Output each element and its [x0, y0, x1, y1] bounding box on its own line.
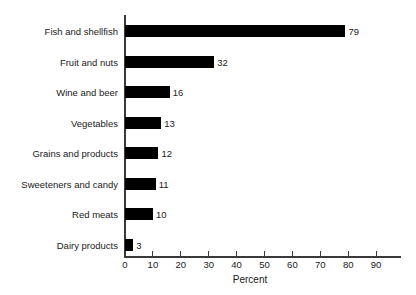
bar-value-label: 16 [173, 87, 184, 98]
bar [125, 25, 345, 37]
x-tick [180, 251, 181, 257]
bar-value-label: 10 [156, 209, 167, 220]
bar [125, 117, 161, 129]
bar-value-label: 32 [217, 57, 228, 68]
category-label: Wine and beer [56, 87, 118, 98]
x-axis-title: Percent [0, 274, 416, 286]
category-label: Fish and shellfish [45, 26, 118, 37]
bar [125, 178, 156, 190]
category-label: Red meats [72, 209, 118, 220]
x-tick [264, 251, 265, 257]
category-label: Sweeteners and candy [21, 179, 118, 190]
bar-value-label: 3 [136, 240, 141, 251]
bar-value-label: 79 [348, 26, 359, 37]
x-tick-label: 60 [287, 259, 298, 270]
x-axis-line [124, 256, 401, 258]
x-tick-label: 80 [343, 259, 354, 270]
x-tick [376, 251, 377, 257]
y-axis-line [124, 15, 126, 257]
x-tick-label: 30 [203, 259, 214, 270]
x-tick [320, 251, 321, 257]
bar-value-label: 13 [164, 118, 175, 129]
x-tick-label: 50 [259, 259, 270, 270]
bar-chart: 0102030405060708090 Fish and shellfish79… [0, 0, 416, 295]
x-tick-label: 0 [122, 259, 127, 270]
x-tick [236, 251, 237, 257]
x-tick-label: 40 [231, 259, 242, 270]
category-label: Grains and products [32, 148, 118, 159]
x-tick-label: 70 [315, 259, 326, 270]
plot-area: 0102030405060708090 Fish and shellfish79… [0, 0, 416, 295]
x-tick [124, 251, 125, 257]
bar [125, 56, 214, 68]
bar [125, 147, 158, 159]
x-tick-label: 10 [148, 259, 159, 270]
bar [125, 208, 153, 220]
x-tick [208, 251, 209, 257]
x-tick-label: 90 [371, 259, 382, 270]
category-label: Fruit and nuts [60, 57, 118, 68]
x-tick [348, 251, 349, 257]
x-axis-title-text: Percent [233, 274, 267, 285]
bar-value-label: 11 [159, 179, 169, 190]
x-tick [292, 251, 293, 257]
category-label: Dairy products [57, 240, 118, 251]
bar-value-label: 12 [161, 148, 172, 159]
x-tick-label: 20 [176, 259, 187, 270]
x-tick [152, 251, 153, 257]
bar [125, 86, 170, 98]
category-label: Vegetables [71, 118, 118, 129]
bar [125, 239, 133, 251]
